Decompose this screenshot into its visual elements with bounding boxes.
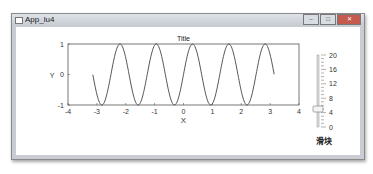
x-tick-label: 4 [297, 108, 301, 115]
window-title: App_lu4 [25, 15, 54, 24]
slider-tick-label: 16 [329, 66, 337, 73]
x-tick-label: 3 [268, 108, 272, 115]
slider-tick-label: 0 [329, 124, 333, 131]
value-slider[interactable]: 048121620 [308, 52, 358, 142]
app-icon [15, 17, 23, 24]
chart-title: Title [177, 35, 190, 42]
y-tick-label: 1 [60, 41, 64, 48]
close-button[interactable]: ✕ [337, 14, 361, 25]
line-chart: -4-3-2-101234-101TitleXY [16, 27, 316, 147]
x-tick-label: -1 [152, 108, 158, 115]
x-tick-label: -2 [123, 108, 129, 115]
slider-tick-label: 4 [329, 109, 333, 116]
y-axis-label: Y [50, 72, 55, 79]
x-tick-label: 1 [210, 108, 214, 115]
slider-label: 滑块 [316, 135, 332, 146]
app-window: App_lu4 – □ ✕ -4-3-2-101234-101TitleXY 0… [11, 13, 365, 160]
minimize-button[interactable]: – [303, 14, 319, 25]
x-tick-label: 2 [239, 108, 243, 115]
x-tick-label: 0 [182, 108, 186, 115]
y-tick-label: -1 [58, 102, 64, 109]
title-bar[interactable]: App_lu4 – □ ✕ [12, 14, 364, 26]
maximize-button[interactable]: □ [320, 14, 336, 25]
slider-tick-label: 20 [329, 52, 337, 59]
slider-track[interactable] [317, 55, 319, 127]
x-tick-label: -4 [65, 108, 71, 115]
slider-thumb[interactable] [313, 106, 323, 112]
x-tick-label: -3 [94, 108, 100, 115]
x-axis-label: X [181, 116, 187, 125]
slider-tick-label: 8 [329, 95, 333, 102]
client-area: -4-3-2-101234-101TitleXY 048121620 滑块 [16, 27, 360, 155]
slider-tick-label: 12 [329, 80, 337, 87]
y-tick-label: 0 [60, 71, 64, 78]
